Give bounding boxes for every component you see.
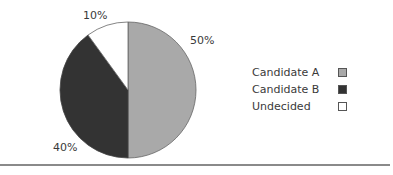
- legend-label: Candidate A: [252, 66, 338, 79]
- legend-item: Candidate A: [252, 64, 347, 81]
- legend-swatch: [338, 102, 347, 111]
- divider: [0, 164, 390, 166]
- legend-swatch: [338, 85, 347, 94]
- label-candidate-b: 40%: [53, 141, 77, 154]
- label-undecided: 10%: [83, 9, 107, 22]
- legend-label: Undecided: [252, 100, 338, 113]
- legend-item: Undecided: [252, 98, 347, 115]
- legend-label: Candidate B: [252, 83, 338, 96]
- legend: Candidate A Candidate B Undecided: [252, 64, 347, 115]
- legend-swatch: [338, 68, 347, 77]
- legend-item: Candidate B: [252, 81, 347, 98]
- label-candidate-a: 50%: [190, 34, 214, 47]
- slice-candidate-a: [128, 22, 196, 158]
